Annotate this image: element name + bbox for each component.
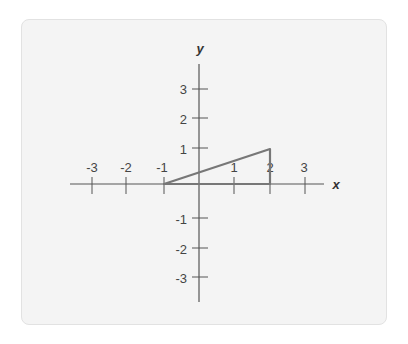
coordinate-plane: -3 -2 -1 1 2 3 3 2 1 -1 -2 -3 y x	[0, 0, 408, 344]
y-tick-label: -1	[175, 212, 187, 227]
x-tick-label: 3	[300, 160, 307, 175]
x-tick-label: -3	[86, 160, 98, 175]
y-tick-label: 3	[180, 82, 187, 97]
y-tick-label: 1	[180, 142, 187, 157]
x-tick-label: -2	[120, 160, 132, 175]
y-tick-label: -2	[175, 242, 187, 257]
x-axis-label: x	[331, 177, 340, 192]
y-tick-label: -3	[175, 271, 187, 286]
x-tick-label: -1	[156, 160, 168, 175]
y-tick-label: 2	[180, 112, 187, 127]
y-axis-label: y	[195, 41, 204, 56]
